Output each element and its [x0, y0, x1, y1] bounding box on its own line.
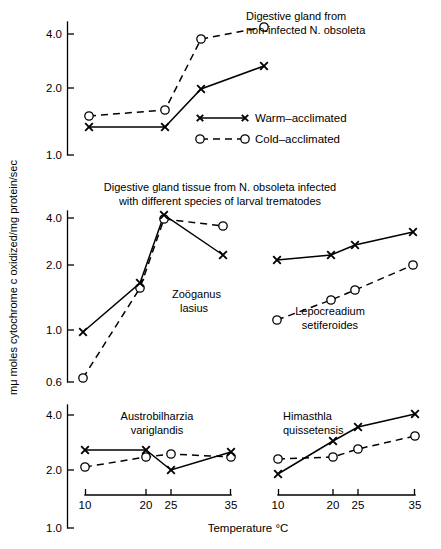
himasthla-label-line2: quissetensis	[283, 424, 344, 436]
austrobilharzia-warm-line	[85, 450, 231, 470]
bottom-right-xtick-label-1: 20	[327, 499, 340, 511]
top-warm-markers	[85, 62, 268, 131]
y-axis-label: mμ moles cytochrome c oxidized/mg protei…	[7, 160, 19, 395]
lepocreadium-label-line2: setiferoides	[302, 319, 359, 331]
legend-cold-label: Cold–acclimated	[255, 133, 340, 145]
panel-bottom: 4.0 2.0 1.0 Austrobilha	[46, 405, 421, 534]
bottom-ytick-label-0: 4.0	[46, 409, 62, 421]
himasthla-warm-line	[278, 414, 415, 474]
group-lepocreadium: Lepocreadium setiferoides	[273, 228, 417, 331]
austrobilharzia-label-line1: Austrobilharzia	[121, 410, 195, 422]
middle-panel-title-line2: with different species of larval tremato…	[118, 195, 322, 207]
middle-ytick-label-2: 1.0	[46, 324, 62, 336]
bottom-ytick-label-2: 1.0	[46, 522, 62, 534]
middle-ytick-label-3: 0.6	[46, 376, 62, 388]
x-axis-label: Temperature °C	[208, 522, 289, 534]
austrobilharzia-label-line2: variglandis	[131, 424, 184, 436]
panel-middle: 4.0 2.0 1.0 0.6 Digestive gland tissue f…	[46, 181, 417, 388]
group-austrobilharzia: Austrobilharzia variglandis 10 20 25 35	[79, 410, 238, 511]
bottom-left-xtick-label-1: 20	[140, 499, 153, 511]
bottom-left-xtick-label-0: 10	[79, 499, 92, 511]
group-zooganus: Zoöganus lasius	[79, 211, 227, 382]
top-ytick-label-2: 1.0	[46, 149, 62, 161]
top-panel-title-line1: Digestive gland from	[246, 10, 346, 22]
bottom-right-xtick-label-0: 10	[272, 499, 285, 511]
middle-ytick-label-0: 4.0	[46, 212, 62, 224]
bottom-right-xtick-label-2: 25	[352, 499, 365, 511]
bottom-right-xtick-label-3: 35	[409, 499, 422, 511]
top-cold-line	[89, 27, 264, 116]
lepocreadium-warm-line	[277, 232, 413, 260]
legend-entry-warm: Warm–acclimated	[197, 112, 347, 124]
top-panel-title-line2: non-infected N. obsoleta	[246, 24, 366, 36]
lepocreadium-label-line1: Lepocreadium	[295, 305, 365, 317]
himasthla-cold-line	[278, 436, 415, 459]
group-himasthla: Himasthla quissetensis 10 20 25 35	[272, 410, 422, 511]
legend-entry-cold: Cold–acclimated	[196, 133, 340, 145]
bottom-left-xtick-label-3: 35	[225, 499, 238, 511]
legend-cold-marker-right	[241, 135, 249, 143]
figure-canvas: mμ moles cytochrome c oxidized/mg protei…	[0, 0, 441, 549]
bottom-ytick-label-1: 2.0	[46, 464, 62, 476]
middle-ytick-label-1: 2.0	[46, 259, 62, 271]
middle-panel-title-line1: Digestive gland tissue from N. obsoleta …	[104, 181, 336, 193]
legend: Warm–acclimated Cold–acclimated	[196, 112, 347, 145]
zooganus-label-line2: lasius	[180, 302, 209, 314]
legend-cold-marker-left	[196, 135, 204, 143]
himasthla-label-line1: Himasthla	[283, 410, 333, 422]
top-ytick-label-0: 4.0	[46, 28, 62, 40]
zooganus-warm-line	[83, 215, 223, 332]
bottom-left-xtick-label-2: 25	[165, 499, 178, 511]
scientific-figure: mμ moles cytochrome c oxidized/mg protei…	[0, 0, 441, 549]
zooganus-label-line1: Zoöganus	[172, 288, 221, 300]
top-ytick-label-1: 2.0	[46, 82, 62, 94]
legend-warm-label: Warm–acclimated	[255, 112, 347, 124]
top-cold-markers	[85, 23, 268, 120]
